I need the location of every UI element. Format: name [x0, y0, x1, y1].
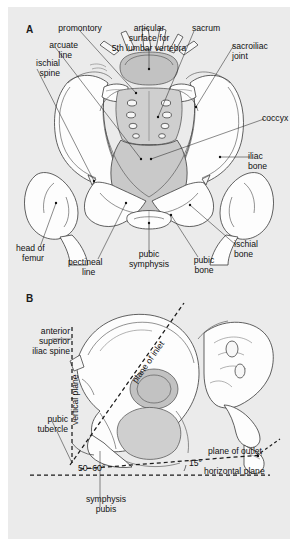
label-ischial-spine-line2: spine	[8, 69, 60, 79]
label-articular-surface-line3: 5th lumbar vertebra	[96, 44, 202, 54]
label-pubic-tubercle-line2: tubercle	[8, 425, 68, 435]
outlet-angle-arc	[184, 465, 186, 471]
label-iliac-bone-line2: bone	[248, 162, 267, 172]
figure-panel: A	[8, 7, 290, 539]
label-promontory: promontory	[42, 24, 118, 34]
label-pectineal-line-line2: line	[82, 268, 95, 278]
label-plane-of-outlet: plane of outlet	[208, 447, 262, 457]
label-asis-line3: iliac spine	[8, 347, 70, 357]
label-pubic-bone-line2: bone	[186, 266, 222, 276]
label-symphysis-pubis-line2: pubis	[68, 505, 144, 515]
label-sacroiliac-joint-line2: joint	[232, 52, 248, 62]
label-angle-inlet: 50–60°	[78, 464, 105, 474]
label-angle-outlet: 15°	[189, 459, 202, 469]
label-coccyx: coccyx	[262, 114, 288, 124]
label-ischial-bone-line2: bone	[234, 250, 253, 260]
label-horizontal-plane: horizontal plane	[204, 467, 265, 477]
label-pubic-symphysis-line2: symphysis	[118, 260, 180, 270]
label-sacrum: sacrum	[178, 24, 234, 34]
label-head-of-femur-line2: femur	[22, 254, 44, 264]
label-vertical-plane: vertical plane	[70, 374, 80, 425]
